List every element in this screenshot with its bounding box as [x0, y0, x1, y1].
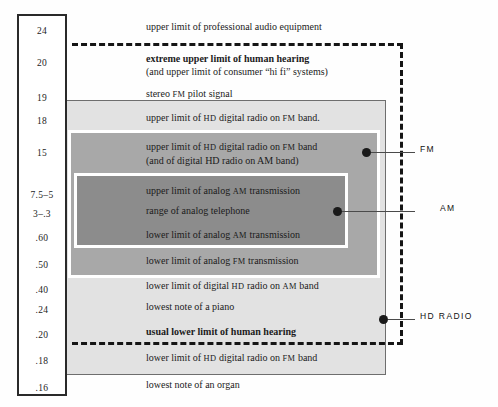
callout-label-hd-radio: HD RADIO [420, 311, 473, 321]
scale-tick-50: .50 [19, 260, 65, 270]
scale-tick-24: 24 [19, 26, 65, 36]
scale-tick-15: 15 [19, 148, 65, 158]
scale-tick-18: 18 [19, 116, 65, 126]
scale-tick-60: .60 [19, 233, 65, 243]
scale-tick-16: .16 [19, 383, 65, 393]
row-text-fragment: HD [204, 354, 217, 363]
scale-tick-18: .18 [19, 356, 65, 366]
callout-leader-line-fm [371, 152, 415, 153]
scale-tick-40: .40 [19, 285, 65, 295]
row-text-fragment: lowest note of an organ [146, 379, 240, 390]
row-label-pro-audio: upper limit of professional audio equipm… [146, 21, 396, 34]
callout-leader-line-am [342, 211, 415, 212]
row-text-fragment: band [295, 352, 317, 363]
scale-tick-755: 7.5–5 [19, 190, 65, 200]
callout-label-fm: FM [420, 144, 435, 154]
frequency-spectrum-figure: 24201918157.5–53–.3.60.50.40.24.20.18.16… [0, 0, 498, 407]
row-label-lowest-note-organ: lowest note of an organ [146, 379, 396, 392]
frequency-scale-column: 24201918157.5–53–.3.60.50.40.24.20.18.16 [17, 14, 67, 396]
human-hearing-envelope [72, 43, 403, 345]
row-label-lower-hd-fm-band: lower limit of HD digital radio on FM ba… [146, 352, 396, 366]
scale-tick-19: 19 [19, 93, 65, 103]
callout-leader-line-hd-radio [388, 319, 415, 320]
scale-tick-20: 20 [19, 58, 65, 68]
row-text-fragment: lower limit of [146, 352, 204, 363]
row-text-fragment: upper limit of professional audio equipm… [146, 21, 322, 32]
callout-dot-fm [362, 148, 371, 157]
scale-tick-24: .24 [19, 305, 65, 315]
callout-dot-hd-radio [379, 315, 388, 324]
callout-dot-am [333, 207, 342, 216]
scale-tick-33: 3–.3 [19, 209, 65, 219]
row-text-fragment: digital radio on [216, 352, 282, 363]
scale-tick-20: .20 [19, 330, 65, 340]
row-text-fragment: FM [283, 354, 296, 363]
callout-label-am: AM [440, 203, 456, 213]
